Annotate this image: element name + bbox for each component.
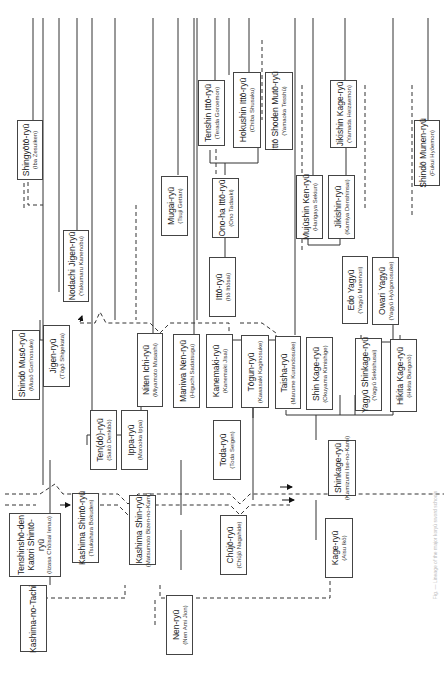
node-tendo: Ten(dō)-ryū(Saitō Denkibō) [90, 410, 117, 470]
node-founder: (Yamaoka Tesshū) [280, 71, 287, 150]
node-mugai: Mugai-ryū(Tsuji Gettan) [161, 176, 188, 236]
node-name: Hikita Kage-ryū [395, 346, 405, 404]
node-name: Kashima Shin-ryū [134, 493, 144, 568]
node-founder: (Kamizumi Ise-no-Kami) [343, 436, 350, 500]
figure-caption: Fig. — Lineage of the major koryū sword … [430, 420, 440, 670]
node-shinto-munen: Shindō Munen-ryū(Fukui Hyōemon) [414, 120, 440, 186]
node-kashima-no-tachi: Kashima-no-Tachi [20, 585, 47, 652]
node-ippa: Ippa-ryū(Morooka Ippa) [121, 410, 148, 470]
node-niten-ichi: Niten Ichi-ryū(Miyamoto Musashi) [137, 333, 163, 407]
node-jigen: Jigen-ryū(Tōgō Shigekata) [43, 325, 70, 387]
node-founder: (Yamada Heizaemon) [345, 82, 352, 147]
node-taisha: Taisha-ryū(Marume Kurandosuke) [275, 336, 301, 409]
node-founder: (Tsukahara Bokuden) [87, 491, 94, 565]
node-name: Edo Yagyū [347, 266, 357, 313]
node-founder: (Marume Kurandosuke) [289, 341, 296, 404]
node-yagyu-shinkage: Yagyū Shinkage-ryū(Yagyū Sekishusai) [355, 338, 382, 411]
node-kashima-shinto: Kashima Shintō-ryū(Tsukahara Bokuden) [72, 493, 99, 563]
node-name: Jikishin-ryū [333, 179, 343, 234]
node-shinto-muso: Shindō Musō-ryū(Musō Gon'nosuke) [12, 330, 40, 400]
node-name: Mugai-ryū [166, 187, 176, 225]
node-founder: (Hikita Bungorō) [405, 346, 412, 404]
node-name: Kashima Shintō-ryū [77, 491, 87, 565]
node-shingyoto: Shingyōtō-ryū(Iba Zesuiken) [17, 120, 43, 180]
node-founder: (Iizasa Chōisai Ienao) [46, 515, 53, 575]
node-founder: (Nen Ami Jion) [181, 605, 188, 644]
node-name: Tenshin Ittō-ryū [203, 84, 213, 142]
node-founder: (Itō Ittōsai) [224, 273, 231, 301]
node-hikita-kage: Hikita Kage-ryū(Hikita Bungorō) [390, 339, 417, 412]
node-kashima-shin: Kashima Shin-ryū(Matsumoto Bizen-no-Kami… [129, 495, 156, 565]
node-name: Ippa-ryū [126, 420, 136, 461]
node-founder: (Terada Goroemon) [213, 84, 220, 142]
node-ono-ha-itto: Ono-ha Ittō-ryū(Ono Tadaaki) [212, 178, 239, 238]
node-founder: (Higuchi Sadatsugu) [188, 340, 195, 402]
node-kanemaki: Kanemaki-ryū(Kanemaki Jisai) [206, 334, 233, 408]
node-jikishin-kage: Jikishin Kage-ryū(Yamada Heizaemon) [330, 80, 357, 148]
node-founder: (Matsumoto Bizen-no-Kami) [144, 493, 151, 568]
node-jikishin: Jikishin-ryū(Kamiya Denshinsai) [328, 175, 355, 239]
node-founder: (Musō Gon'nosuke) [27, 333, 34, 397]
node-name: Nen-ryū [171, 605, 181, 644]
node-name: Yagyū Shinkage-ryū [360, 337, 370, 413]
node-mujushin-ken: Mujūshin Ken-ryū(Harigaya Sekiun) [296, 175, 323, 239]
node-itto-shoden-muto: Ittō Shoden Mutō-ryū(Yamaoka Tesshū) [265, 72, 293, 150]
node-founder: (Kamiya Denshinsai) [343, 179, 350, 234]
node-name: Mujūshin Ken-ryū [301, 174, 311, 240]
node-name: Toda-ryū [219, 431, 229, 468]
node-founder: (Yakumaru Kanenobu) [77, 232, 84, 301]
node-name: Jikishin Kage-ryū [335, 82, 345, 147]
node-founder: (Yagyū Munenori) [356, 266, 363, 313]
node-hokushin-itto: Hokushin Ittō-ryū(Chiba Shusaku) [233, 72, 261, 148]
node-owari-yagyu: Owari Yagyū(Yagyū Hyōgonosuke) [372, 257, 399, 325]
node-founder: (Saitō Denkibō) [105, 418, 112, 461]
node-name: Niten Ichi-ryū [142, 343, 152, 397]
node-name: Shindō Musō-ryū [18, 333, 28, 397]
node-kage: Kage-ryū(Aisu Ikō) [325, 518, 353, 578]
node-name: Tōgun-ryū [247, 340, 257, 403]
node-founder: (Harigaya Sekiun) [311, 174, 318, 240]
node-name: Hokushin Ittō-ryū [239, 78, 249, 142]
node-itto: Ittō-ryū(Itō Ittōsai) [209, 257, 236, 317]
caption-text: Fig. — Lineage of the major koryū sword … [432, 491, 438, 599]
node-founder: (Tōgō Shigekata) [58, 333, 65, 379]
node-nodachi-jigen: Nodachi Jigen-ryū(Yakumaru Kanenobu) [63, 230, 89, 302]
node-tenshin-itto: Tenshin Ittō-ryū(Terada Goroemon) [198, 80, 225, 146]
node-name: Ono-ha Ittō-ryū [217, 179, 227, 236]
node-tenshinsho-den-katori: Tenshinshō-den Katori Shintō-ryū(Iizasa … [9, 513, 61, 577]
node-name: Chūjō-ryū [225, 521, 235, 568]
node-founder: (Chūjō Nagahide) [235, 521, 242, 568]
node-name: Taisha-ryū [280, 341, 290, 404]
node-nen: Nen-ryū(Nen Ami Jion) [166, 595, 193, 655]
node-founder: (Iba Zesuiken) [31, 124, 38, 176]
node-name: Kage-ryū [331, 531, 341, 566]
node-shin-kage: Shin Kage-ryū(Okuyama Kimishige) [306, 337, 333, 410]
node-name: Ittō Shoden Mutō-ryū [271, 71, 281, 150]
node-name: Nodachi Jigen-ryū [68, 232, 78, 301]
node-name: Jigen-ryū [48, 333, 58, 379]
node-name: Kashima-no-Tachi [29, 584, 39, 652]
node-name: Tenshinshō-den Katori Shintō-ryū [17, 515, 46, 575]
node-founder: (Tsuji Gettan) [176, 187, 183, 225]
node-founder: (Morooka Ippa) [136, 420, 143, 461]
node-edo-yagyu: Edo Yagyū(Yagyū Munenori) [342, 256, 368, 324]
node-shinkage: Shinkage-ryū(Kamizumi Ise-no-Kami) [328, 440, 356, 496]
node-name: Ten(dō)-ryū [95, 418, 105, 461]
node-maniwa-nen: Maniwa Nen-ryū(Higuchi Sadatsugu) [173, 334, 200, 408]
node-toda: Toda-ryū(Toda Seigen) [213, 420, 241, 480]
node-founder: (Chiba Shusaku) [248, 78, 255, 142]
node-founder: (Yagyū Hyōgonosuke) [387, 262, 394, 321]
node-founder: (Fukui Hyōemon) [428, 118, 435, 187]
node-name: Ittō-ryū [214, 273, 224, 301]
node-togun: Tōgun-ryū(Kawasaki Kaginosuke) [241, 335, 269, 408]
node-name: Shinkage-ryū [334, 436, 344, 500]
node-name: Owari Yagyū [377, 262, 387, 321]
node-founder: (Miyamoto Musashi) [151, 343, 158, 397]
node-founder: (Kanemaki Jisai) [221, 345, 228, 397]
node-name: Shin Kage-ryū [311, 345, 321, 402]
node-founder: (Aisu Ikō) [340, 531, 347, 566]
node-founder: (Ono Tadaaki) [227, 179, 234, 236]
node-name: Maniwa Nen-ryū [178, 340, 188, 402]
node-founder: (Toda Seigen) [228, 431, 235, 468]
node-name: Shindō Munen-ryū [419, 118, 429, 187]
